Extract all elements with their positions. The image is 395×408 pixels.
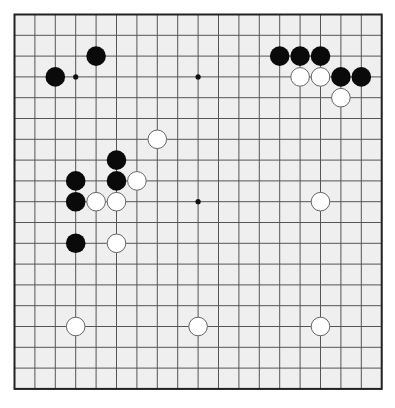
star-point [196, 74, 201, 79]
black-stone [270, 46, 290, 66]
black-stone [66, 192, 86, 212]
black-stone [86, 46, 106, 66]
white-stone [148, 130, 167, 149]
white-stone [189, 317, 208, 336]
black-stone [107, 150, 127, 170]
white-stone [311, 68, 330, 87]
black-stone [331, 67, 351, 87]
black-stone [66, 234, 86, 254]
black-stone [311, 46, 331, 66]
go-board[interactable] [0, 0, 395, 408]
white-stone [311, 317, 330, 336]
star-point [196, 199, 201, 204]
white-stone [107, 192, 126, 211]
white-stone [311, 192, 330, 211]
white-stone [66, 317, 85, 336]
white-stone [87, 192, 106, 211]
white-stone [107, 234, 126, 253]
black-stone [46, 67, 66, 87]
white-stone [291, 68, 310, 87]
star-point [73, 74, 78, 79]
white-stone [332, 88, 351, 107]
black-stone [352, 67, 372, 87]
black-stone [107, 171, 127, 191]
white-stone [128, 172, 147, 191]
black-stone [290, 46, 310, 66]
black-stone [66, 171, 86, 191]
